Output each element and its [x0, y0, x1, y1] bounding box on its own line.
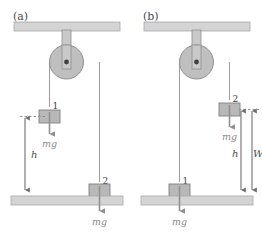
panel-b-dimension-w: W	[252, 111, 262, 190]
figure-canvas: (a) 1 mg	[0, 0, 262, 240]
panel-a-floor	[11, 196, 123, 205]
panel-b-dimension-h-label: h	[232, 148, 238, 159]
physics-figure-pulley-blocks: (a) 1 mg	[0, 0, 262, 240]
panel-b-block-2-number: 2	[233, 94, 239, 104]
panel-b-dimension-w-label: W	[253, 148, 262, 159]
panel-a-block-2-force-label: mg	[92, 216, 107, 227]
panel-b-floor	[141, 196, 253, 205]
panel-b-pulley-axle	[194, 60, 199, 65]
panel-a-dimension-h-label: h	[31, 149, 37, 160]
panel-b-dimension-h: h	[232, 111, 241, 190]
panel-b-pulley-wheel	[180, 45, 214, 79]
panel-b: (b) 2 mg	[141, 10, 262, 227]
panel-a-block-1-number: 1	[53, 101, 59, 111]
panel-b-block-2-force-label: mg	[222, 131, 237, 142]
panel-b-label: (b)	[143, 10, 159, 23]
panel-a-dimension-h: h	[25, 118, 37, 190]
panel-b-block-1-force-label: mg	[172, 216, 187, 227]
panel-a-label: (a)	[13, 10, 28, 23]
panel-a-pulley-wheel	[50, 45, 84, 79]
panel-a-pulley-axle	[64, 60, 69, 65]
panel-a-block-1-force-label: mg	[42, 138, 57, 149]
panel-a: (a) 1 mg	[11, 10, 123, 227]
panel-b-ropes	[180, 62, 230, 182]
